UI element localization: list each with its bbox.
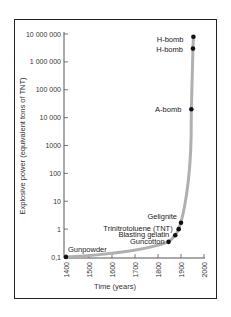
x-tick-label: 2000 bbox=[201, 262, 208, 278]
x-tick-label: 1600 bbox=[109, 262, 116, 278]
point-label: Trinitrotoluene (TNT) bbox=[103, 224, 173, 233]
data-point bbox=[191, 46, 196, 51]
y-tick-label: 10 000 bbox=[40, 114, 62, 121]
y-tick-label: 1 bbox=[57, 226, 61, 233]
point-label: Gunpowder bbox=[68, 245, 107, 254]
y-ticks: 0,1110100100010 000100 0001 000 00010 00… bbox=[26, 31, 68, 261]
point-label: H-bomb bbox=[156, 45, 183, 54]
point-label: A-bomb bbox=[155, 105, 181, 114]
x-tick-label: 1900 bbox=[178, 262, 185, 278]
data-point bbox=[179, 220, 184, 225]
point-label: H-bomb bbox=[157, 35, 184, 44]
y-tick-label: 10 bbox=[53, 198, 61, 205]
y-tick-label: 1 000 000 bbox=[30, 58, 61, 65]
x-tick-label: 1700 bbox=[132, 262, 139, 278]
data-point bbox=[166, 240, 171, 245]
point-label: Gelignite bbox=[147, 212, 177, 221]
explosive-power-chart: 0,1110100100010 000100 0001 000 00010 00… bbox=[0, 0, 231, 317]
y-tick-label: 100 bbox=[49, 170, 61, 177]
data-point bbox=[64, 255, 69, 260]
x-tick-label: 1500 bbox=[86, 262, 93, 278]
y-tick-label: 1000 bbox=[45, 142, 61, 149]
data-point bbox=[173, 233, 178, 238]
data-point bbox=[189, 107, 194, 112]
y-tick-label: 100 000 bbox=[36, 86, 61, 93]
point-labels: GunpowderGuncottonBlasting gelatinTrinit… bbox=[68, 35, 183, 254]
x-axis-title: Time (years) bbox=[94, 282, 136, 291]
y-tick-label: 0,1 bbox=[51, 254, 61, 261]
y-tick-label: 10 000 000 bbox=[26, 31, 61, 38]
x-tick-label: 1400 bbox=[63, 262, 70, 278]
data-point bbox=[191, 34, 196, 39]
y-axis-title: Explosive power (equivalent tons of TNT) bbox=[18, 77, 27, 215]
x-tick-label: 1800 bbox=[155, 262, 162, 278]
data-point bbox=[176, 227, 181, 232]
